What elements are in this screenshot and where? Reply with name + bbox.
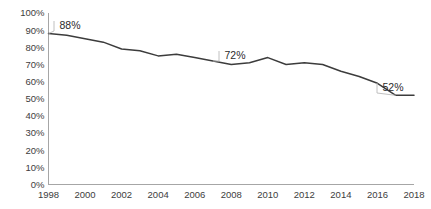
x-tick-label: 2010: [257, 189, 278, 200]
x-tick-label: 2008: [221, 189, 242, 200]
annotation-leader-lines: [49, 21, 396, 95]
y-tick-label: 100%: [20, 7, 45, 18]
annotation-leader-line: [49, 21, 55, 34]
y-axis-tick-labels: 0%10%20%30%40%50%60%70%80%90%100%: [20, 7, 45, 190]
y-tick-label: 60%: [25, 76, 45, 87]
y-tick-label: 20%: [25, 145, 45, 156]
x-axis-tick-labels: 1998200020022004200620082010201220142016…: [38, 189, 425, 200]
axis-lines: [49, 13, 415, 185]
y-tick-label: 30%: [25, 127, 45, 138]
y-tick-label: 90%: [25, 25, 45, 36]
x-tick-label: 2014: [330, 189, 351, 200]
y-tick-label: 70%: [25, 59, 45, 70]
x-tick-label: 2012: [294, 189, 315, 200]
y-tick-label: 40%: [25, 110, 45, 121]
annotation-value-labels: 88%72%52%: [59, 19, 403, 93]
annotation-leader-line: [213, 51, 219, 61]
x-tick-label: 1998: [38, 189, 59, 200]
line-chart: 0%10%20%30%40%50%60%70%80%90%100% 199820…: [0, 0, 431, 209]
x-tick-label: 2018: [403, 189, 424, 200]
data-point-value-label: 52%: [382, 81, 403, 93]
y-tick-label: 50%: [25, 93, 45, 104]
y-tick-label: 10%: [25, 162, 45, 173]
data-series-line: [49, 34, 415, 96]
x-tick-label: 2006: [184, 189, 205, 200]
x-tick-label: 2002: [111, 189, 132, 200]
data-point-value-label: 88%: [59, 19, 80, 31]
y-tick-label: 80%: [25, 42, 45, 53]
x-tick-label: 2004: [148, 189, 169, 200]
x-tick-label: 2000: [74, 189, 95, 200]
chart-canvas: 0%10%20%30%40%50%60%70%80%90%100% 199820…: [0, 0, 431, 209]
x-tick-label: 2016: [367, 189, 388, 200]
data-point-value-label: 72%: [224, 49, 245, 61]
